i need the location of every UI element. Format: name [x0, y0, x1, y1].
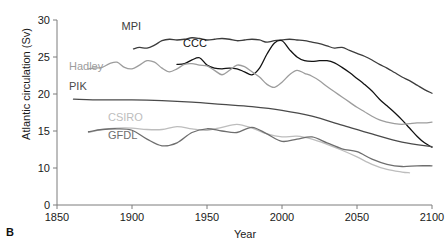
series-label-hadley: Hadley — [69, 60, 104, 72]
series-label-gfdl: GFDL — [108, 129, 137, 141]
series-line-ccc — [177, 40, 432, 147]
y-tick-label: 0 — [44, 199, 50, 211]
series-line-mpi — [134, 38, 433, 94]
line-chart-svg: 01015202530185019001950200020502100 MPIC… — [0, 0, 448, 245]
series-label-csiro: CSIRO — [108, 111, 143, 123]
series-label-mpi: MPI — [122, 20, 142, 32]
x-tick-label: 1950 — [195, 211, 219, 223]
y-tick-label: 20 — [38, 88, 50, 100]
panel-letter: B — [6, 226, 14, 238]
y-tick-label: 10 — [38, 162, 50, 174]
series-line-gfdl — [89, 127, 433, 166]
y-tick-label: 25 — [38, 51, 50, 63]
x-tick-label: 2000 — [270, 211, 294, 223]
y-axis-title: Atlantic circulation (Sv) — [20, 14, 32, 154]
series-label-ccc: CCC — [183, 37, 207, 49]
y-tick-label: 15 — [38, 125, 50, 137]
series-group — [74, 38, 433, 173]
chart-panel: Atlantic circulation (Sv) B 010152025301… — [0, 0, 448, 245]
x-tick-label: 1850 — [45, 211, 69, 223]
x-tick-label: 2050 — [345, 211, 369, 223]
x-tick-label: 2100 — [420, 211, 444, 223]
x-tick-label: 1900 — [120, 211, 144, 223]
x-axis-title: Year — [234, 228, 257, 240]
y-tick-label: 30 — [38, 14, 50, 26]
series-label-pik: PIK — [69, 80, 87, 92]
axes-group: 01015202530185019001950200020502100 — [38, 14, 444, 223]
series-labels-group: MPICCCHadleyPIKCSIROGFDL — [69, 20, 207, 141]
